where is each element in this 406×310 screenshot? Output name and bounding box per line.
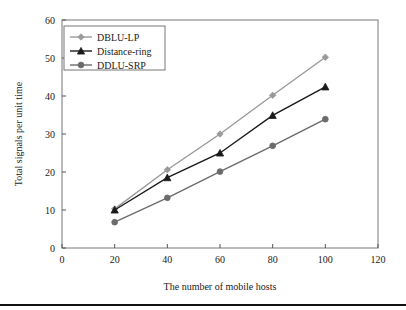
figure-container: 0204060801001200102030405060The number o… (0, 0, 406, 310)
marker-circle (270, 143, 276, 149)
y-tick-label-40: 40 (45, 91, 55, 102)
x-tick-label-100: 100 (318, 254, 333, 265)
x-tick-label-20: 20 (110, 254, 120, 265)
y-tick-label-20: 20 (45, 167, 55, 178)
x-tick-label-120: 120 (371, 254, 386, 265)
legend-label-dblu-lp: DBLU-LP (97, 32, 140, 43)
figure-bottom-rule (0, 304, 406, 306)
y-tick-label-10: 10 (45, 205, 55, 216)
marker-circle (164, 195, 170, 201)
y-tick-label-30: 30 (45, 129, 55, 140)
x-tick-label-60: 60 (215, 254, 225, 265)
x-tick-label-80: 80 (268, 254, 278, 265)
legend-label-ddlu-srp: DDLU-SRP (97, 60, 146, 71)
marker-circle (112, 219, 118, 225)
x-tick-label-40: 40 (162, 254, 172, 265)
x-axis-title: The number of mobile hosts (164, 281, 277, 292)
legend-label-distance-ring: Distance-ring (97, 46, 151, 57)
series-line-distance-ring (115, 87, 326, 210)
marker-circle (217, 169, 223, 175)
marker-triangle (164, 174, 171, 181)
marker-circle (322, 116, 328, 122)
y-axis-title: Total signals per unit time (13, 81, 24, 186)
y-tick-label-0: 0 (50, 243, 55, 254)
x-tick-label-0: 0 (60, 254, 65, 265)
marker-triangle (322, 83, 329, 90)
y-tick-label-50: 50 (45, 53, 55, 64)
marker-triangle (269, 112, 276, 119)
marker-circle (78, 62, 84, 68)
line-chart: 0204060801001200102030405060The number o… (0, 0, 406, 310)
y-tick-label-60: 60 (45, 15, 55, 26)
